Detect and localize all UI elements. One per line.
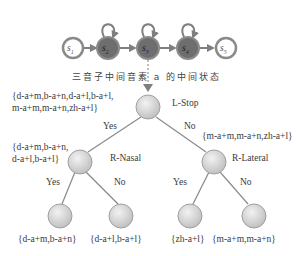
tree-leaf-1	[48, 204, 72, 228]
edge-label-root-yes: Yes	[103, 120, 117, 132]
state-label-s1: s1	[67, 42, 74, 58]
r-nasal-question: R-Nasal	[110, 152, 141, 164]
pointer-arrowhead	[143, 84, 153, 92]
root-question: L-Stop	[172, 97, 198, 109]
tree-leaf-2	[109, 204, 133, 228]
leaf-1-set: {d-a+m,b-a+n}	[18, 233, 77, 245]
state-label-s5: s5	[220, 42, 227, 58]
state-label-s3: s3	[142, 42, 149, 58]
root-set-line2: m-a+m,m-a+n,zh-a+l}	[12, 102, 98, 114]
tree-leaf-3	[178, 204, 202, 228]
leaf-4-set: {m-a+m,m-a+n}	[212, 233, 276, 245]
edge-label-root-no: No	[184, 120, 196, 132]
edge-label-r-lateral-no: No	[240, 176, 252, 188]
edge-label-r-nasal-no: No	[114, 176, 126, 188]
tree-node-r-nasal	[68, 150, 92, 174]
r-nasal-set-line1: {d-a+m,b-a+n,	[12, 141, 68, 153]
diagram-canvas	[0, 0, 308, 256]
leaf-3-set: {zh-a+l}	[171, 233, 204, 245]
hmm-caption: 三音子中间音素 a 的中间状态	[72, 70, 221, 83]
r-lateral-set: {m-a+m,m-a+n,zh-a+l}	[202, 130, 293, 142]
r-lateral-question: R-Lateral	[232, 152, 268, 164]
state-label-s2: s2	[102, 42, 109, 58]
tree-node-root	[136, 95, 160, 119]
tree-node-r-lateral	[202, 150, 226, 174]
leaf-2-set: {d-a+l,b-a+l}	[90, 233, 142, 245]
edge-label-r-nasal-yes: Yes	[46, 176, 60, 188]
state-label-s4: s4	[182, 42, 189, 58]
edge-label-r-lateral-yes: Yes	[173, 176, 187, 188]
tree-leaf-4	[242, 204, 266, 228]
r-nasal-set-line2: d-a+l,b-a+l}	[12, 153, 59, 165]
root-set-line1: {d-a+m,b-a+n,d-a+l,b-a+l,	[12, 90, 113, 102]
